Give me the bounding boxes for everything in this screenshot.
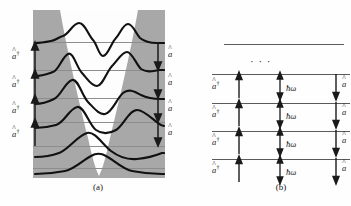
lower-operator-label: ^a xyxy=(168,50,172,59)
lower-operator-label: ^a xyxy=(342,80,346,89)
potential-well xyxy=(33,10,165,178)
dagger-icon: † xyxy=(216,79,220,87)
hat-icon: ^ xyxy=(342,75,346,83)
raise-operator-label: ^a† xyxy=(212,164,220,174)
panel-a: ^a† ^a† ^a† ^a† xyxy=(0,0,176,206)
panel-b-caption: (b) xyxy=(261,182,301,192)
wavefunction-n4 xyxy=(35,52,164,86)
lower-arrow-group-a xyxy=(150,10,166,178)
wavefunction-n2 xyxy=(35,107,164,134)
panel-a-caption: (a) xyxy=(78,182,118,192)
hat-icon: ^ xyxy=(212,77,216,85)
raise-operator-label: ^a† xyxy=(212,136,220,146)
hat-icon: ^ xyxy=(342,131,346,139)
dagger-icon: † xyxy=(16,49,20,57)
hat-icon: ^ xyxy=(168,73,172,81)
raise-arrow-group-b xyxy=(231,70,247,190)
wavefunction-set xyxy=(33,10,165,178)
dagger-icon: † xyxy=(16,127,20,135)
hat-icon: ^ xyxy=(342,159,346,167)
hat-icon: ^ xyxy=(168,123,172,131)
level-line-top xyxy=(224,44,344,45)
ellipsis-label: · · · xyxy=(250,56,272,67)
raise-operator-label: ^a† xyxy=(12,50,20,60)
hat-icon: ^ xyxy=(168,45,172,53)
lower-operator-label: ^a xyxy=(168,104,172,113)
raise-operator-column-a: ^a† ^a† ^a† ^a† xyxy=(12,10,42,178)
energy-gap-label: ħω xyxy=(286,84,296,93)
dagger-icon: † xyxy=(216,107,220,115)
raise-operator-label: ^a† xyxy=(12,78,20,88)
raise-operator-label: ^a† xyxy=(212,80,220,90)
hat-icon: ^ xyxy=(12,125,16,133)
wavefunction-n1 xyxy=(35,133,164,159)
energy-gap-label: ħω xyxy=(286,140,296,149)
hat-icon: ^ xyxy=(212,161,216,169)
dagger-icon: † xyxy=(16,77,20,85)
raise-operator-label: ^a† xyxy=(212,108,220,118)
energy-gap-label: ħω xyxy=(286,168,296,177)
dagger-icon: † xyxy=(16,103,20,111)
wavefunction-n0 xyxy=(35,154,164,174)
hat-icon: ^ xyxy=(168,99,172,107)
lower-operator-label: ^a xyxy=(342,164,346,173)
energy-gap-label: ħω xyxy=(286,112,296,121)
lower-operator-label: ^a xyxy=(168,78,172,87)
raise-operator-label: ^a† xyxy=(12,104,20,114)
panel-b: · · · xyxy=(176,0,351,206)
wavefunction-n5 xyxy=(35,23,164,56)
lower-operator-label: ^a xyxy=(342,108,346,117)
figure-root: ^a† ^a† ^a† ^a† xyxy=(0,0,351,206)
hat-icon: ^ xyxy=(342,103,346,111)
hat-icon: ^ xyxy=(212,133,216,141)
raise-arrow-group-a xyxy=(27,10,43,178)
lower-operator-label: ^a xyxy=(168,128,172,137)
hat-icon: ^ xyxy=(12,47,16,55)
dagger-icon: † xyxy=(216,135,220,143)
lower-operator-label: ^a xyxy=(342,136,346,145)
hat-icon: ^ xyxy=(12,101,16,109)
hat-icon: ^ xyxy=(12,75,16,83)
dagger-icon: † xyxy=(216,163,220,171)
hat-icon: ^ xyxy=(212,105,216,113)
raise-operator-label: ^a† xyxy=(12,128,20,138)
